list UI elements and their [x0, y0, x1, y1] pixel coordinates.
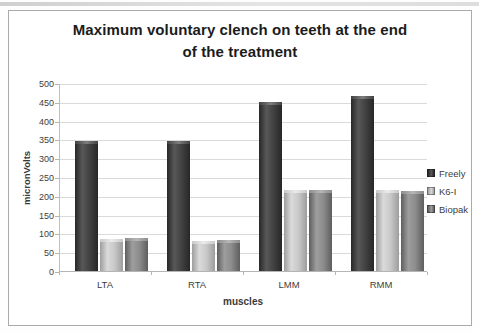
bar-top-highlight [376, 190, 399, 193]
y-tick-mark [55, 253, 59, 254]
y-tick-label-450: 450 [26, 98, 54, 108]
bar-top-highlight [217, 240, 240, 243]
x-axis-tick [59, 272, 60, 275]
bar-freely-lta [75, 141, 98, 271]
bar-top-highlight [309, 190, 332, 193]
bar-k6-i-rmm [376, 190, 399, 271]
y-tick-mark [55, 140, 59, 141]
bar-top-highlight [351, 96, 374, 99]
legend-label-k6-i: K6-I [439, 186, 456, 197]
bar-biopak-rta [217, 240, 240, 271]
y-tick-label-250: 250 [26, 173, 54, 183]
gridline-500 [60, 84, 427, 85]
bar-top-highlight [259, 102, 282, 105]
legend-swatch-biopak-icon [427, 205, 435, 213]
bar-biopak-lta [125, 238, 148, 271]
y-tick-label-500: 500 [26, 79, 54, 89]
plot-area [59, 84, 427, 272]
x-axis-title: muscles [59, 296, 427, 307]
chart-legend: FreelyK6-IBiopak [427, 164, 473, 218]
figure-canvas: Maximum voluntary clench on teeth at the… [0, 0, 479, 334]
y-tick-mark [55, 103, 59, 104]
bar-biopak-rmm [401, 191, 424, 271]
y-tick-mark [55, 178, 59, 179]
bar-k6-i-lta [100, 239, 123, 271]
x-category-label-rmm: RMM [335, 279, 427, 290]
y-tick-mark [55, 234, 59, 235]
y-tick-mark [55, 197, 59, 198]
legend-item-freely: Freely [427, 164, 473, 182]
bar-top-highlight [192, 241, 215, 244]
x-category-label-rta: RTA [151, 279, 243, 290]
legend-label-biopak: Biopak [439, 204, 468, 215]
bar-freely-lmm [259, 102, 282, 271]
bar-top-highlight [284, 190, 307, 193]
y-tick-label-400: 400 [26, 117, 54, 127]
y-tick-mark [55, 122, 59, 123]
bar-freely-rmm [351, 96, 374, 271]
x-axis-tick [243, 272, 244, 275]
y-tick-label-350: 350 [26, 135, 54, 145]
bar-top-highlight [401, 191, 424, 194]
y-tick-mark [55, 216, 59, 217]
chart-title-line-2: of the treatment [9, 41, 471, 63]
legend-swatch-k6-i-icon [427, 187, 435, 195]
legend-swatch-freely-icon [427, 169, 435, 177]
bar-top-highlight [167, 141, 190, 144]
y-tick-label-100: 100 [26, 229, 54, 239]
chart-title: Maximum voluntary clench on teeth at the… [9, 19, 471, 63]
x-axis-tick [335, 272, 336, 275]
bar-top-highlight [75, 141, 98, 144]
legend-label-freely: Freely [439, 168, 465, 179]
bar-top-highlight [125, 238, 148, 241]
chart-frame: Maximum voluntary clench on teeth at the… [8, 10, 472, 326]
legend-item-k6-i: K6-I [427, 182, 473, 200]
bar-biopak-lmm [309, 190, 332, 271]
x-axis-tick [427, 272, 428, 275]
y-tick-label-300: 300 [26, 154, 54, 164]
chart-title-line-1: Maximum voluntary clench on teeth at the… [9, 19, 471, 41]
y-tick-mark [55, 84, 59, 85]
legend-item-biopak: Biopak [427, 200, 473, 218]
y-tick-label-50: 50 [26, 248, 54, 258]
x-axis-tick [151, 272, 152, 275]
y-tick-label-150: 150 [26, 211, 54, 221]
bar-k6-i-rta [192, 241, 215, 271]
y-tick-label-0: 0 [26, 267, 54, 277]
x-category-label-lmm: LMM [243, 279, 335, 290]
bar-k6-i-lmm [284, 190, 307, 271]
bar-freely-rta [167, 141, 190, 271]
scan-artifact-strip [0, 2, 479, 6]
y-tick-mark [55, 159, 59, 160]
y-tick-label-200: 200 [26, 192, 54, 202]
x-category-label-lta: LTA [59, 279, 151, 290]
bar-top-highlight [100, 239, 123, 242]
